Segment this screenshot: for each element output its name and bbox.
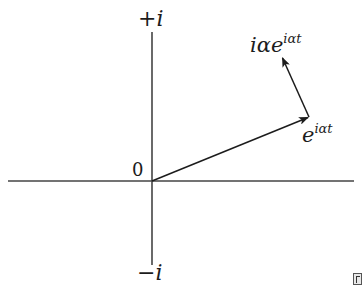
- complex-plane-diagram: +i −i 0 iαeiαt eiαt: [0, 0, 363, 292]
- origin-text: 0: [132, 159, 143, 180]
- velocity-label-base: iαe: [250, 33, 283, 57]
- negative-imaginary-label: −i: [137, 262, 162, 284]
- page-icon[interactable]: [353, 273, 362, 285]
- velocity-label-exponent: iαt: [283, 31, 301, 46]
- position-vector-label: eiαt: [302, 122, 333, 146]
- positive-imaginary-text: +i: [138, 6, 163, 31]
- position-label-exponent: iαt: [314, 121, 332, 136]
- velocity-vector-label: iαeiαt: [250, 32, 302, 56]
- position-label-base: e: [302, 123, 314, 147]
- positive-imaginary-label: +i: [138, 8, 163, 30]
- negative-imaginary-text: −i: [137, 260, 162, 285]
- origin-label: 0: [132, 161, 143, 179]
- velocity-vector-arrow: [283, 58, 310, 117]
- position-vector-arrow: [152, 118, 308, 182]
